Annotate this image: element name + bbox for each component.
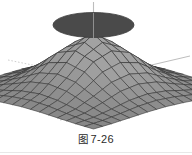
surface-plot-svg — [0, 0, 192, 132]
floating-disk-group — [53, 13, 134, 39]
caption-number: 7-26 — [88, 133, 114, 145]
figure-caption: 图7-26 — [0, 131, 192, 146]
caption-label: 图 — [78, 133, 88, 145]
surface-plot-area — [0, 0, 192, 132]
figure-container: 图7-26 — [0, 0, 192, 155]
bottom-rule-divider — [0, 152, 192, 153]
